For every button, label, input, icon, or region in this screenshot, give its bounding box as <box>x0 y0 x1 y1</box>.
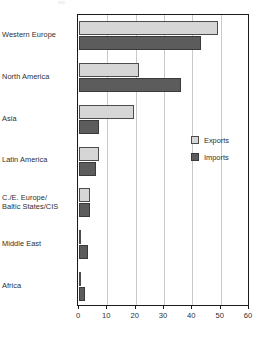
x-tick-mark-0 <box>78 306 79 309</box>
x-tick-label-20: 20 <box>130 311 138 320</box>
bar-exports-1 <box>79 63 139 77</box>
bar-exports-5 <box>79 230 81 244</box>
legend-swatch-exports-icon <box>191 136 199 144</box>
category-label-4: C./E. Europe/ Baltic States/CIS <box>2 193 68 211</box>
bar-imports-2 <box>79 120 99 134</box>
category-axis-labels: Western EuropeNorth AmericaAsiaLatin Ame… <box>0 14 74 306</box>
chart-legend: ExportsImports <box>191 132 249 166</box>
bar-imports-5 <box>79 245 88 259</box>
category-label-0: Western Europe <box>2 30 68 39</box>
category-label-6: Africa <box>2 281 68 290</box>
x-tick-label-60: 60 <box>244 311 252 320</box>
x-tick-label-10: 10 <box>102 311 110 320</box>
x-axis: 0102030405060 <box>77 306 249 328</box>
bar-imports-0 <box>79 36 201 50</box>
legend-label-imports: Imports <box>204 153 229 162</box>
bar-imports-4 <box>79 203 90 217</box>
x-tick-mark-60 <box>248 306 249 309</box>
category-label-1: North America <box>2 72 68 81</box>
x-tick-mark-50 <box>220 306 221 309</box>
category-label-2: Asia <box>2 114 68 123</box>
category-label-3: Latin America <box>2 155 68 164</box>
bar-chart: Western EuropeNorth AmericaAsiaLatin Ame… <box>0 0 263 339</box>
x-tick-mark-10 <box>106 306 107 309</box>
legend-item-exports[interactable]: Exports <box>191 132 249 148</box>
bar-exports-2 <box>79 105 134 119</box>
x-tick-label-40: 40 <box>187 311 195 320</box>
top-edge-artifact <box>58 1 65 4</box>
x-tick-mark-20 <box>135 306 136 309</box>
plot-area: ExportsImports <box>77 14 249 306</box>
bar-exports-4 <box>79 188 90 202</box>
x-tick-mark-40 <box>191 306 192 309</box>
bar-exports-3 <box>79 147 99 161</box>
bar-imports-6 <box>79 287 85 301</box>
legend-label-exports: Exports <box>204 136 229 145</box>
x-tick-label-50: 50 <box>215 311 223 320</box>
gridline-20 <box>136 15 137 305</box>
legend-item-imports[interactable]: Imports <box>191 149 249 165</box>
x-tick-label-30: 30 <box>159 311 167 320</box>
x-tick-label-0: 0 <box>76 311 80 320</box>
bar-imports-3 <box>79 162 96 176</box>
category-label-5: Middle East <box>2 239 68 248</box>
bar-exports-0 <box>79 21 218 35</box>
bar-imports-1 <box>79 78 181 92</box>
bar-exports-6 <box>79 272 81 286</box>
legend-swatch-imports-icon <box>191 153 199 161</box>
gridline-10 <box>107 15 108 305</box>
x-tick-mark-30 <box>163 306 164 309</box>
gridline-30 <box>164 15 165 305</box>
